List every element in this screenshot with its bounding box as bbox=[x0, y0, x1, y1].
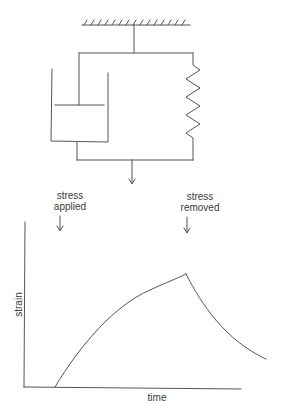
fixed-support-icon bbox=[82, 20, 190, 25]
x-axis-label: time bbox=[137, 392, 177, 403]
creep-curve bbox=[55, 274, 186, 387]
stress-applied-label: stress applied bbox=[40, 190, 100, 212]
stress-applied-arrow-icon bbox=[57, 216, 63, 231]
stress-removed-arrow-icon bbox=[184, 217, 190, 233]
x-axis bbox=[24, 387, 241, 389]
plot-axes bbox=[24, 222, 241, 389]
spring-icon bbox=[186, 53, 200, 160]
y-axis bbox=[24, 222, 25, 387]
recovery-curve bbox=[186, 274, 266, 359]
dashpot-icon bbox=[51, 53, 108, 160]
y-axis-label: strain bbox=[13, 285, 24, 325]
stress-removed-label: stress removed bbox=[170, 191, 230, 213]
stress-removed-line-1: stress bbox=[170, 191, 230, 202]
arrow-down-icon bbox=[129, 160, 135, 184]
stress-applied-line-1: stress bbox=[40, 190, 100, 201]
stress-applied-line-2: applied bbox=[40, 201, 100, 212]
stress-removed-line-2: removed bbox=[170, 202, 230, 213]
